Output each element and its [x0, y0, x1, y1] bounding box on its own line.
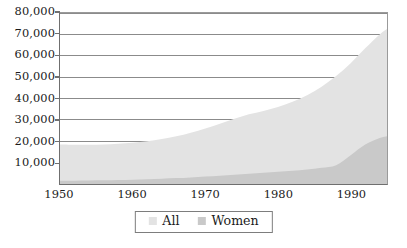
x-axis-tick-labels: 19501960197019801990: [0, 189, 407, 207]
x-tick-label: 1970: [191, 189, 220, 200]
y-tick-mark: [55, 119, 60, 120]
y-tick-label: 80,000: [0, 6, 55, 17]
x-tick-label: 1980: [264, 189, 293, 200]
x-tick-label: 1990: [337, 189, 366, 200]
y-tick-label: 50,000: [0, 71, 55, 82]
legend-swatch-all: [148, 217, 156, 225]
y-tick-mark: [55, 33, 60, 34]
series-areas: [60, 29, 387, 184]
y-tick-label: 20,000: [0, 136, 55, 147]
y-tick-label: 70,000: [0, 28, 55, 39]
y-tick-label: 10,000: [0, 157, 55, 168]
legend-swatch-women: [197, 217, 205, 225]
y-tick-mark: [55, 55, 60, 56]
area-series-all: [60, 29, 387, 184]
x-tick-label: 1950: [44, 189, 73, 200]
legend-label-women: Women: [211, 215, 258, 228]
plot-area: [59, 12, 388, 185]
y-tick-label: 30,000: [0, 114, 55, 125]
area-chart-figure: 10,00020,00030,00040,00050,00060,00070,0…: [0, 0, 407, 248]
y-axis-tick-labels: 10,00020,00030,00040,00050,00060,00070,0…: [0, 0, 55, 248]
legend-label-all: All: [162, 215, 179, 228]
y-tick-mark: [55, 11, 60, 12]
y-tick-mark: [55, 98, 60, 99]
legend-item-women[interactable]: Women: [197, 215, 258, 228]
chart-legend: All Women: [134, 211, 272, 233]
x-tick-label: 1960: [117, 189, 146, 200]
y-tick-label: 60,000: [0, 49, 55, 60]
chart-canvas: [60, 13, 387, 184]
y-tick-mark: [55, 76, 60, 77]
y-tick-label: 40,000: [0, 93, 55, 104]
y-tick-mark: [55, 163, 60, 164]
legend-item-all[interactable]: All: [148, 215, 179, 228]
y-tick-mark: [55, 141, 60, 142]
